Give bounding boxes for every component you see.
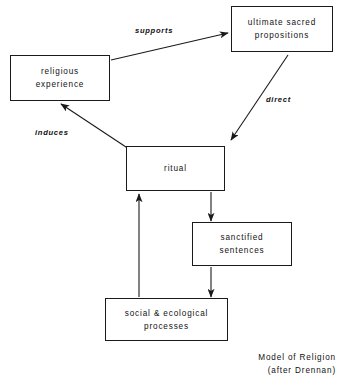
- node-ultimate-sacred-propositions[interactable]: ultimate sacred propositions: [231, 6, 333, 52]
- node-label: religious experience: [33, 65, 88, 91]
- node-label: social & ecological processes: [122, 307, 212, 333]
- node-label: ritual: [161, 162, 190, 175]
- figure-caption: Model of Religion (after Drennan): [203, 352, 336, 377]
- figure-caption-line-1: Model of Religion: [203, 352, 336, 365]
- node-sanctified-sentences[interactable]: sanctified sentences: [192, 222, 292, 266]
- node-ritual[interactable]: ritual: [126, 146, 225, 191]
- edge-label-induces: induces: [35, 128, 69, 137]
- edge-label-supports: supports: [135, 26, 173, 35]
- node-religious-experience[interactable]: religious experience: [10, 55, 110, 101]
- node-label: ultimate sacred propositions: [245, 16, 319, 42]
- edge-label-direct: direct: [266, 95, 291, 104]
- edge-supports: [111, 33, 228, 60]
- edge-induces: [61, 104, 129, 149]
- node-social-ecological-processes[interactable]: social & ecological processes: [105, 298, 228, 341]
- figure-caption-line-2: (after Drennan): [203, 365, 336, 377]
- diagram-canvas: ultimate sacred propositions religious e…: [0, 0, 343, 377]
- node-label: sanctified sentences: [217, 231, 268, 257]
